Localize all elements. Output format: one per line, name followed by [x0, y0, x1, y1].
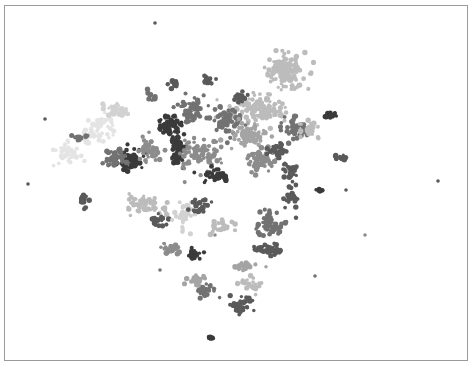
- data-point: [185, 277, 189, 281]
- data-point: [272, 222, 276, 226]
- data-point: [192, 136, 196, 140]
- data-point: [233, 228, 237, 232]
- data-point: [187, 114, 192, 119]
- data-point: [171, 114, 175, 118]
- data-point: [237, 113, 241, 117]
- data-point: [272, 78, 276, 82]
- data-point: [254, 282, 258, 286]
- data-point: [247, 162, 251, 166]
- data-point: [75, 147, 79, 151]
- data-point: [279, 121, 283, 125]
- data-point: [273, 48, 278, 53]
- data-point: [268, 253, 273, 258]
- data-point: [159, 246, 163, 250]
- data-point: [301, 76, 306, 81]
- data-point: [328, 115, 333, 120]
- data-point: [185, 203, 190, 208]
- data-point: [163, 127, 167, 131]
- data-point: [245, 306, 249, 310]
- data-point: [258, 97, 262, 101]
- data-point: [187, 140, 192, 145]
- outlier-point: [436, 179, 440, 183]
- data-point: [240, 89, 245, 94]
- data-point: [188, 231, 193, 236]
- data-point: [68, 157, 71, 160]
- data-point: [98, 118, 103, 123]
- data-point: [258, 92, 262, 96]
- data-point: [145, 153, 149, 157]
- data-point: [277, 99, 281, 103]
- data-point: [83, 127, 88, 132]
- data-point: [238, 299, 242, 303]
- data-point: [218, 296, 222, 300]
- data-point: [57, 161, 61, 165]
- data-point: [141, 151, 145, 155]
- data-point: [126, 206, 131, 211]
- data-point: [246, 121, 249, 124]
- data-point: [264, 146, 269, 151]
- data-point: [183, 91, 187, 95]
- data-point: [233, 266, 236, 269]
- data-point: [197, 278, 202, 283]
- data-point: [221, 219, 225, 223]
- data-point: [292, 131, 297, 136]
- data-point: [262, 225, 266, 229]
- data-point: [178, 152, 182, 156]
- data-point: [281, 174, 286, 179]
- data-point: [192, 249, 197, 254]
- data-point: [153, 196, 157, 200]
- data-point: [54, 149, 58, 153]
- data-point: [216, 228, 220, 232]
- data-point: [215, 98, 218, 101]
- data-point: [246, 295, 252, 301]
- data-point: [164, 245, 168, 249]
- data-point: [86, 134, 90, 138]
- data-point: [284, 110, 289, 115]
- data-point: [267, 245, 272, 250]
- data-point: [129, 201, 132, 204]
- data-point: [138, 157, 143, 162]
- data-point: [278, 124, 283, 129]
- outlier-point: [363, 233, 367, 237]
- data-point: [180, 213, 184, 217]
- data-point: [282, 52, 286, 56]
- data-point: [253, 122, 256, 125]
- data-point: [169, 247, 173, 251]
- data-point: [186, 159, 191, 164]
- data-point: [125, 142, 129, 146]
- data-point: [186, 207, 191, 212]
- data-point: [237, 126, 242, 131]
- data-point: [278, 146, 281, 149]
- data-point: [157, 119, 161, 123]
- data-point: [267, 57, 272, 62]
- data-point: [273, 147, 277, 151]
- data-point: [181, 206, 185, 210]
- data-point: [291, 180, 295, 184]
- data-point: [220, 227, 225, 232]
- data-point: [119, 106, 124, 111]
- data-point: [263, 65, 267, 69]
- data-point: [289, 166, 292, 169]
- data-point: [193, 278, 197, 282]
- data-point: [220, 121, 223, 124]
- data-point: [198, 295, 203, 300]
- data-point: [302, 50, 307, 55]
- data-point: [132, 147, 136, 151]
- outlier-point: [26, 182, 30, 186]
- data-point: [237, 138, 241, 142]
- data-point: [243, 266, 248, 271]
- data-point: [256, 106, 261, 111]
- data-point: [235, 306, 240, 311]
- data-point: [253, 262, 257, 266]
- data-point: [169, 86, 174, 91]
- data-point: [176, 245, 181, 250]
- data-point: [170, 157, 173, 160]
- data-point: [208, 170, 212, 174]
- data-point: [192, 208, 196, 212]
- data-point: [144, 161, 147, 164]
- data-point: [247, 97, 250, 100]
- data-point: [217, 221, 221, 225]
- data-point: [104, 149, 109, 154]
- data-point: [290, 69, 295, 74]
- data-point: [192, 140, 196, 144]
